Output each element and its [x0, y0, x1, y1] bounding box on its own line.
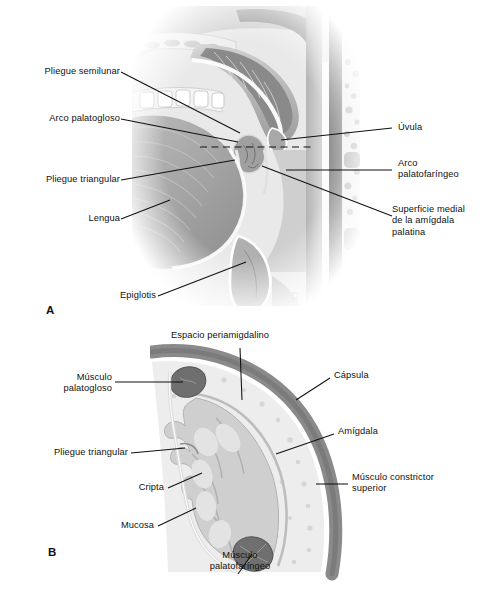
label-uvula: Úvula: [398, 122, 486, 133]
label-epiglotis: Epiglotis: [40, 290, 156, 301]
panel-b-letter: B: [48, 546, 56, 558]
label-musculo-constrictor-superior: Músculo constrictor superior: [352, 472, 480, 495]
panel-a: CDB Pliegue semilunar Arco palatogloso P…: [0, 0, 486, 322]
label-superficie-medial-amigdala: Superficie medial de la amígdala palatin…: [392, 204, 486, 238]
label-cripta: Cripta: [100, 482, 164, 493]
label-pliegue-triangular: Pliegue triangular: [4, 174, 120, 185]
label-musculo-palatogloso: Músculo palatogloso: [20, 372, 112, 395]
label-arco-palatogloso: Arco palatogloso: [4, 113, 120, 124]
panel-a-letter: A: [46, 304, 54, 316]
label-capsula: Cápsula: [334, 370, 426, 381]
panel-b: Espacio periamigdalino Músculo palatoglo…: [0, 322, 486, 590]
sagittal-section: CDB: [132, 6, 360, 312]
label-mucosa: Mucosa: [86, 520, 154, 531]
label-espacio-periamigdalino: Espacio periamigdalino: [150, 330, 290, 341]
label-amigdala: Amígdala: [338, 426, 430, 437]
leader-capsula: [296, 378, 330, 400]
label-musculo-palatofaringeo: Músculo palatofaríngeo: [178, 550, 302, 573]
label-lengua: Lengua: [4, 213, 120, 224]
label-arco-palatofaringeo: Arco palatofaríngeo: [398, 158, 486, 181]
label-pliegue-triangular-b: Pliegue triangular: [6, 447, 128, 458]
anatomy-figure: CDB Pliegue semilunar Arco palatogloso P…: [0, 0, 486, 590]
tonsil-cross-section: [152, 351, 336, 576]
label-pliegue-semilunar: Pliegue semilunar: [4, 66, 120, 77]
